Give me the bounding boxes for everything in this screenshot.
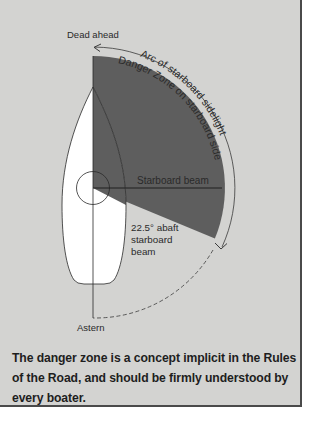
abaft-label-line2: starboard (131, 234, 172, 245)
caption: The danger zone is a concept implicit in… (12, 348, 297, 408)
dead-ahead-label: Dead ahead (67, 29, 119, 40)
arrow-abaft-icon (215, 243, 227, 249)
starboard-beam-label: Starboard beam (137, 175, 209, 186)
abaft-label-line3: beam (131, 246, 156, 257)
astern-label: Astern (77, 322, 104, 333)
abaft-label-line1: 22.5° abaft (131, 222, 179, 233)
arrow-dead-ahead-icon (94, 44, 101, 52)
